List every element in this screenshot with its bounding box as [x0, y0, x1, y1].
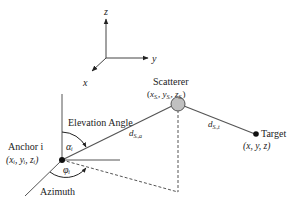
target-node — [253, 131, 259, 137]
z-axis-label: z — [103, 6, 108, 17]
diagram-canvas: z y x Scatterer (xSᵢ, ySᵢ, zSᵢ) Anchor i… — [0, 0, 303, 204]
anchor-node — [59, 157, 65, 163]
target-coords: (x, y, z) — [243, 141, 270, 152]
azimuth-label: Azimuth — [40, 186, 75, 197]
x-axis-label: x — [82, 77, 88, 88]
x-axis — [92, 58, 106, 71]
scatterer-target-distance-label: dSᵢ,t — [208, 119, 220, 130]
anchor-scatterer-distance-label: dSᵢ,a — [129, 128, 142, 139]
anchor-scatterer-path — [62, 106, 172, 160]
anchor-coords: (xᵢ, yᵢ, zᵢ) — [6, 155, 38, 166]
target-title: Target — [261, 128, 286, 139]
scatterer-title: Scatterer — [153, 76, 189, 87]
elevation-angle-symbol: αᵢ — [66, 141, 73, 152]
y-axis-label: y — [151, 53, 157, 64]
azimuth-angle-symbol: φᵢ — [63, 164, 71, 175]
azimuth-projection-line — [62, 160, 178, 192]
anchor-title: Anchor i — [8, 141, 43, 152]
coordinate-axes: z y x — [82, 6, 157, 88]
elevation-angle-label: Elevation Angle — [68, 117, 133, 128]
scatterer-coords: (xSᵢ, ySᵢ, zSᵢ) — [147, 89, 185, 100]
